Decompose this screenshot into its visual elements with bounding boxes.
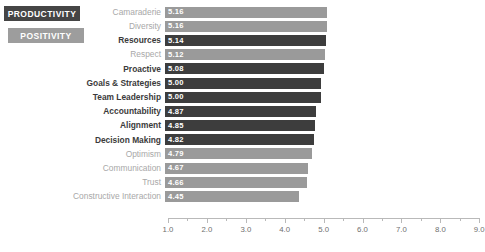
axis-tick-label: 8.0 xyxy=(435,225,446,234)
bar[interactable]: 5.00 xyxy=(165,78,321,89)
bar-category-label: Trust xyxy=(0,178,165,186)
axis-tick-major xyxy=(207,218,208,223)
bar-category-label: Resources xyxy=(0,36,165,44)
axis-tick-label: 7.0 xyxy=(396,225,407,234)
bar-row[interactable]: Decision Making4.82 xyxy=(0,133,479,147)
x-axis: 1.02.03.04.05.06.07.08.09.0 xyxy=(168,218,479,252)
bar-row[interactable]: Constructive Interaction4.45 xyxy=(0,189,479,203)
bar-value-label: 4.85 xyxy=(165,122,184,130)
bar-category-label: Team Leadership xyxy=(0,93,165,101)
bar-category-label: Diversity xyxy=(0,22,165,30)
bar-value-label: 4.87 xyxy=(165,108,184,116)
bar[interactable]: 4.85 xyxy=(165,120,315,131)
bar-row[interactable]: Accountability4.87 xyxy=(0,104,479,118)
axis-tick-minor xyxy=(460,218,461,221)
bar-category-label: Alignment xyxy=(0,121,165,129)
bar-value-label: 4.66 xyxy=(165,179,184,187)
bar[interactable]: 4.45 xyxy=(165,191,299,202)
bar[interactable]: 4.82 xyxy=(165,134,314,145)
bar-value-label: 5.00 xyxy=(165,93,184,101)
bar-track: 5.12 xyxy=(165,49,479,60)
axis-tick-minor xyxy=(226,218,227,221)
bar[interactable]: 4.79 xyxy=(165,148,312,159)
bar-track: 4.67 xyxy=(165,163,479,174)
bar-row[interactable]: Optimism4.79 xyxy=(0,147,479,161)
bar-category-label: Accountability xyxy=(0,107,165,115)
bar[interactable]: 4.87 xyxy=(165,106,316,117)
bar-row[interactable]: Alignment4.85 xyxy=(0,119,479,133)
bar-track: 4.66 xyxy=(165,177,479,188)
bar-rows: Camaraderie5.16Diversity5.16Resources5.1… xyxy=(0,5,479,204)
bar[interactable]: 5.12 xyxy=(165,49,325,60)
bar-category-label: Proactive xyxy=(0,65,165,73)
bar-row[interactable]: Diversity5.16 xyxy=(0,19,479,33)
bar-track: 4.87 xyxy=(165,106,479,117)
axis-tick-label: 9.0 xyxy=(474,225,485,234)
axis-tick-minor xyxy=(187,218,188,221)
axis-tick-major xyxy=(246,218,247,223)
bar-value-label: 4.45 xyxy=(165,193,184,201)
bar-track: 5.00 xyxy=(165,78,479,89)
bar-row[interactable]: Camaraderie5.16 xyxy=(0,5,479,19)
bar-category-label: Decision Making xyxy=(0,136,165,144)
bar-value-label: 4.82 xyxy=(165,136,184,144)
bar-category-label: Camaraderie xyxy=(0,8,165,16)
bar-row[interactable]: Goals & Strategies5.00 xyxy=(0,76,479,90)
bar-track: 4.82 xyxy=(165,134,479,145)
bar[interactable]: 5.00 xyxy=(165,92,321,103)
bar[interactable]: 5.16 xyxy=(165,21,327,32)
bar[interactable]: 5.14 xyxy=(165,35,326,46)
bar-row[interactable]: Proactive5.08 xyxy=(0,62,479,76)
bar-value-label: 5.16 xyxy=(165,22,184,30)
bar-category-label: Goals & Strategies xyxy=(0,79,165,87)
bar[interactable]: 4.66 xyxy=(165,177,307,188)
bar-category-label: Communication xyxy=(0,164,165,172)
axis-tick-major xyxy=(285,218,286,223)
bar-track: 5.16 xyxy=(165,21,479,32)
bar-row[interactable]: Respect5.12 xyxy=(0,48,479,62)
bar-value-label: 5.14 xyxy=(165,37,184,45)
bar-row[interactable]: Resources5.14 xyxy=(0,33,479,47)
bar[interactable]: 5.16 xyxy=(165,7,327,18)
bar-track: 5.14 xyxy=(165,35,479,46)
bar-row[interactable]: Team Leadership5.00 xyxy=(0,90,479,104)
axis-tick-major xyxy=(401,218,402,223)
axis-tick-major xyxy=(168,218,169,223)
axis-tick-label: 5.0 xyxy=(318,225,329,234)
bar[interactable]: 4.67 xyxy=(165,163,308,174)
bar-track: 4.85 xyxy=(165,120,479,131)
bar-row[interactable]: Communication4.67 xyxy=(0,161,479,175)
bar-track: 4.45 xyxy=(165,191,479,202)
bar-value-label: 5.12 xyxy=(165,51,184,59)
axis-tick-label: 3.0 xyxy=(240,225,251,234)
axis-tick-label: 4.0 xyxy=(279,225,290,234)
axis-tick-major xyxy=(363,218,364,223)
axis-tick-minor xyxy=(343,218,344,221)
axis-tick-label: 2.0 xyxy=(201,225,212,234)
bar-category-label: Constructive Interaction xyxy=(0,192,165,200)
bar-track: 4.79 xyxy=(165,148,479,159)
axis-tick-major xyxy=(479,218,480,223)
bar-track: 5.00 xyxy=(165,92,479,103)
bar-category-label: Respect xyxy=(0,50,165,58)
axis-tick-minor xyxy=(265,218,266,221)
axis-tick-major xyxy=(324,218,325,223)
bar-track: 5.16 xyxy=(165,7,479,18)
bar-value-label: 5.16 xyxy=(165,8,184,16)
bar-value-label: 5.00 xyxy=(165,79,184,87)
axis-tick-minor xyxy=(304,218,305,221)
axis-tick-label: 6.0 xyxy=(357,225,368,234)
bar-value-label: 4.79 xyxy=(165,150,184,158)
bar[interactable]: 5.08 xyxy=(165,63,324,74)
bar-category-label: Optimism xyxy=(0,150,165,158)
axis-tick-label: 1.0 xyxy=(163,225,174,234)
bar-track: 5.08 xyxy=(165,63,479,74)
axis-tick-minor xyxy=(421,218,422,221)
bar-row[interactable]: Trust4.66 xyxy=(0,175,479,189)
bar-value-label: 5.08 xyxy=(165,65,184,73)
axis-tick-major xyxy=(440,218,441,223)
bar-value-label: 4.67 xyxy=(165,164,184,172)
axis-tick-minor xyxy=(382,218,383,221)
